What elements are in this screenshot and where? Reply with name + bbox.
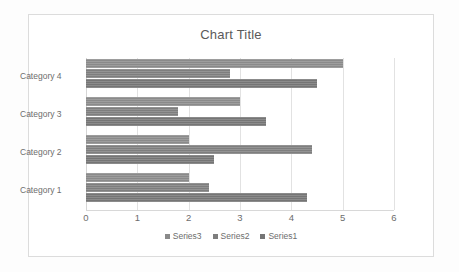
legend-item-series3[interactable]: Series3 (165, 231, 202, 241)
bar-series1-category-4[interactable] (86, 79, 317, 88)
chart-title[interactable]: Chart Title (29, 27, 433, 42)
value-axis-tick-label: 6 (391, 212, 396, 223)
bar-series3-category-4[interactable] (86, 59, 343, 68)
bar-series3-category-3[interactable] (86, 97, 240, 106)
chart-object-frame[interactable]: Chart Title Category 4Category 3Category… (28, 14, 434, 257)
plot-area[interactable] (86, 58, 394, 210)
bar-series3-category-2[interactable] (86, 135, 189, 144)
category-axis-label: Category 4 (20, 71, 86, 81)
value-axis-tick-label: 2 (186, 212, 191, 223)
category-axis-label: Category 2 (20, 147, 86, 157)
category-axis-label: Category 1 (20, 185, 86, 195)
legend-swatch-icon (165, 234, 170, 239)
legend-item-series1[interactable]: Series1 (260, 231, 297, 241)
bar-series3-category-1[interactable] (86, 173, 189, 182)
bar-series1-category-2[interactable] (86, 155, 214, 164)
chart-legend[interactable]: Series3Series2Series1 (29, 231, 433, 241)
bar-series2-category-2[interactable] (86, 145, 312, 154)
legend-swatch-icon (213, 234, 218, 239)
value-axis-line (86, 210, 394, 211)
value-axis[interactable]: 0123456 (86, 212, 394, 228)
legend-label: Series3 (173, 231, 202, 241)
gridline-6 (394, 58, 395, 210)
value-axis-tick-label: 1 (135, 212, 140, 223)
bar-series2-category-4[interactable] (86, 69, 230, 78)
bar-series1-category-3[interactable] (86, 117, 266, 126)
bar-series2-category-3[interactable] (86, 107, 178, 116)
legend-swatch-icon (260, 234, 265, 239)
legend-label: Series2 (221, 231, 250, 241)
category-axis-label: Category 3 (20, 109, 86, 119)
bar-group (86, 134, 394, 172)
bar-group (86, 172, 394, 210)
bar-group (86, 58, 394, 96)
bar-group (86, 96, 394, 134)
value-axis-tick-label: 3 (237, 212, 242, 223)
legend-item-series2[interactable]: Series2 (213, 231, 250, 241)
value-axis-tick-label: 5 (340, 212, 345, 223)
bar-series1-category-1[interactable] (86, 193, 307, 202)
legend-label: Series1 (268, 231, 297, 241)
category-axis[interactable]: Category 4Category 3Category 2Category 1 (34, 58, 86, 210)
value-axis-tick-label: 4 (289, 212, 294, 223)
bar-series2-category-1[interactable] (86, 183, 209, 192)
value-axis-tick-label: 0 (83, 212, 88, 223)
